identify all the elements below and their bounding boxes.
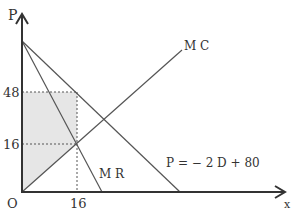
origin-label: O — [7, 197, 18, 210]
mc-label: M C — [184, 40, 209, 52]
diagram-canvas — [0, 0, 293, 213]
y-tick-48: 48 — [3, 86, 20, 99]
x-axis-label: x — [284, 199, 290, 210]
demand-label: P = − 2 D + 80 — [166, 157, 260, 169]
y-axis-label: P — [8, 8, 17, 22]
mr-label: M R — [99, 168, 124, 180]
shaded-area — [22, 92, 77, 192]
x-tick-16: 16 — [70, 197, 87, 210]
y-tick-16: 16 — [3, 138, 20, 151]
